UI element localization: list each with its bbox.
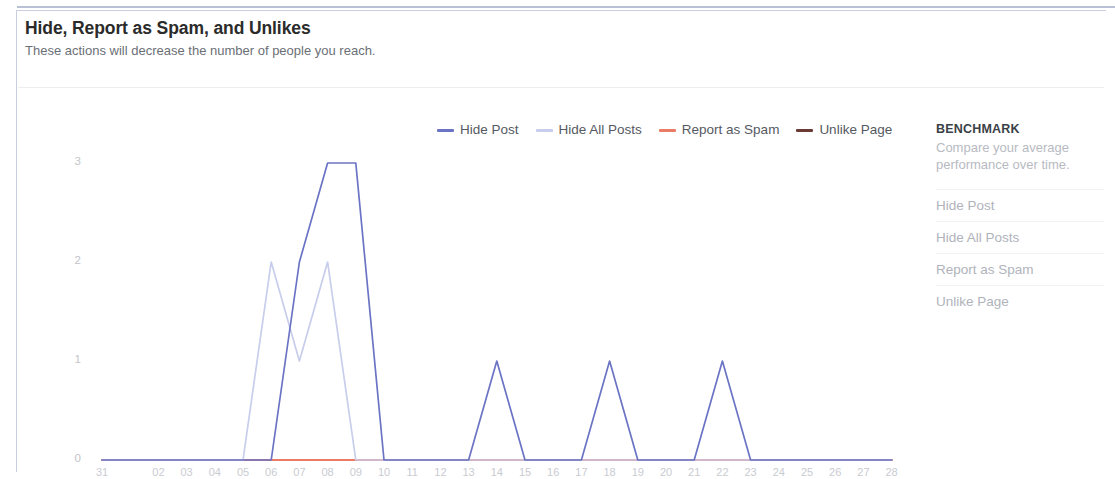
x-axis-tick-label: 23 [740,466,762,478]
legend-swatch-icon [659,129,676,132]
x-axis-tick-label: 07 [288,466,310,478]
x-axis-tick-label: 08 [317,466,339,478]
legend-item-label: Unlike Page [819,122,892,138]
x-axis-tick-label: 22 [711,466,733,478]
x-axis-tick-label: 21 [683,466,705,478]
x-axis-tick-label: 18 [599,466,621,478]
x-axis-tick-label: 11 [401,466,423,478]
x-axis-tick-label: 17 [570,466,592,478]
x-axis-tick-label: 10 [373,466,395,478]
benchmark-item[interactable]: Hide All Posts [936,222,1104,254]
y-axis-tick-label: 0 [61,452,81,464]
x-axis-tick-label: 04 [204,466,226,478]
benchmark-item[interactable]: Report as Spam [936,254,1104,286]
legend-swatch-icon [536,129,553,132]
x-axis-tick-label: 20 [655,466,677,478]
card-header: Hide, Report as Spam, and Unlikes These … [25,17,925,60]
page-title: Hide, Report as Spam, and Unlikes [25,17,925,39]
x-axis-tick-label: 09 [345,466,367,478]
legend-item[interactable]: Unlike Page [796,122,892,138]
x-axis-tick-label: 19 [627,466,649,478]
x-axis-tick-label: 06 [260,466,282,478]
x-axis-tick-label: 27 [852,466,874,478]
x-axis-tick-label: 12 [429,466,451,478]
benchmark-item[interactable]: Hide Post [936,190,1104,222]
benchmark-panel: BENCHMARK Compare your average performan… [936,121,1104,317]
x-axis-tick-label: 14 [486,466,508,478]
chart-series-line [102,163,892,460]
benchmark-item[interactable]: Unlike Page [936,286,1104,317]
benchmark-description: Compare your average performance over ti… [936,139,1104,173]
chart-legend: Hide PostHide All PostsReport as SpamUnl… [437,122,892,138]
x-axis-tick-label: 05 [232,466,254,478]
header-divider [18,87,1104,88]
legend-item[interactable]: Hide Post [437,122,519,138]
legend-item-label: Hide Post [460,122,519,138]
card-top-rule [17,6,1115,8]
page-subtitle: These actions will decrease the number o… [25,42,925,60]
x-axis-tick-label: 26 [824,466,846,478]
legend-swatch-icon [437,129,454,132]
y-axis-tick-label: 1 [61,353,81,365]
x-axis-tick-label: 28 [881,466,903,478]
legend-item-label: Report as Spam [682,122,780,138]
x-axis-tick-label: 15 [514,466,536,478]
legend-item[interactable]: Report as Spam [659,122,780,138]
x-axis-tick-label: 25 [796,466,818,478]
x-axis-tick-label: 13 [458,466,480,478]
y-axis-tick-label: 2 [61,254,81,266]
benchmark-title: BENCHMARK [936,121,1104,137]
x-axis-tick-label: 31 [91,466,113,478]
insights-card: Hide, Report as Spam, and Unlikes These … [16,10,1106,472]
x-axis-tick-label: 03 [176,466,198,478]
x-axis-tick-label: 24 [768,466,790,478]
legend-item-label: Hide All Posts [559,122,642,138]
x-axis-tick-label: 16 [542,466,564,478]
legend-item[interactable]: Hide All Posts [536,122,642,138]
benchmark-metric-list: Hide PostHide All PostsReport as SpamUnl… [936,189,1104,317]
chart-series-line [102,262,892,460]
y-axis-tick-label: 3 [61,155,81,167]
legend-swatch-icon [796,129,813,132]
x-axis-tick-label: 02 [147,466,169,478]
